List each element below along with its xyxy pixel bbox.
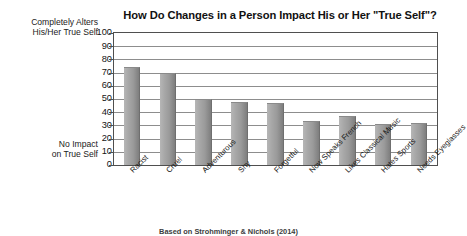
bar [339, 116, 356, 165]
axis-annotation-top-line-2: His/Her True Self [2, 27, 98, 37]
bar [231, 102, 248, 165]
bar [195, 99, 212, 165]
axis-annotation-bottom: No Impact on True Self [2, 139, 98, 159]
bar-slot [401, 32, 437, 165]
bar-slot [329, 32, 365, 165]
axis-annotation-top: Completely Alters His/Her True Self [2, 17, 98, 37]
bar [124, 67, 141, 165]
bar-slot [186, 32, 222, 165]
axis-annotation-bottom-line-2: on True Self [2, 149, 98, 159]
bar [267, 103, 284, 165]
axis-annotation-bottom-line-1: No Impact [2, 139, 98, 149]
y-axis-tick-mark [109, 165, 113, 166]
bar [160, 73, 177, 165]
bar-slot [365, 32, 401, 165]
bar-slot [114, 32, 150, 165]
bar [375, 124, 392, 165]
axis-annotation-top-line-1: Completely Alters [2, 17, 98, 27]
bar-series [113, 32, 438, 165]
bar-slot [293, 32, 329, 165]
bar [411, 123, 428, 165]
bar-slot [258, 32, 294, 165]
chart-title: How Do Changes in a Person Impact His or… [110, 9, 450, 21]
bar [303, 121, 320, 165]
bar-slot [150, 32, 186, 165]
source-caption: Based on Strohminger & Nichols (2014) [0, 227, 457, 236]
bar-slot [222, 32, 258, 165]
